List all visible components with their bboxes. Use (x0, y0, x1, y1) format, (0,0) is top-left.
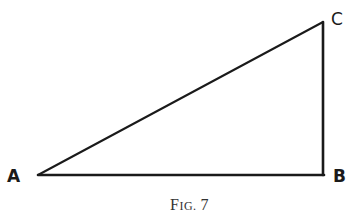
vertex-label-b: B (333, 166, 346, 186)
figure-caption: FIG.7 (170, 196, 209, 213)
caption-prefix-small: IG. (179, 199, 196, 213)
vertex-label-a: A (7, 166, 21, 186)
vertex-label-c: C (331, 9, 343, 29)
right-triangle-figure: A B C FIG.7 (0, 0, 357, 216)
edge-a-c (38, 22, 323, 175)
caption-prefix-big: F (170, 196, 179, 213)
caption-number: 7 (201, 196, 210, 213)
